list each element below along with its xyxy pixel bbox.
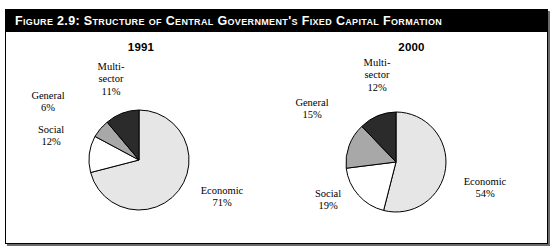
pie-label-general-2000-text: General	[286, 97, 338, 109]
pie-chart-1991	[87, 108, 191, 212]
pie-value-general-1991: 6%	[22, 102, 74, 114]
pie-label-economic-2000: Economic 54%	[453, 176, 517, 201]
figure-title-bar: Figure 2.9: Structure of Central Governm…	[6, 10, 547, 32]
pie-label-economic-1991-text: Economic	[190, 185, 254, 197]
pie-label-multi-sector-1991-line1b: sector	[84, 73, 138, 85]
figure-container: Figure 2.9: Structure of Central Governm…	[0, 0, 555, 252]
chart-title-1991: 1991	[6, 41, 294, 53]
pie-value-social-2000: 19%	[304, 200, 352, 212]
pie-label-multi-sector-1991: Multi- sector 11%	[84, 61, 138, 98]
pie-label-multi-sector-2000-line1b: sector	[350, 69, 404, 81]
pie-label-social-2000: Social 19%	[304, 188, 352, 213]
pie-value-economic-2000: 54%	[453, 188, 517, 200]
chart-panel-1991: 1991 Multi- sector 11% General 6% Socia	[6, 32, 276, 243]
pie-label-multi-sector-2000-line1: Multi-	[350, 57, 404, 69]
chart-title-2000: 2000	[276, 41, 555, 53]
pie-label-economic-1991: Economic 71%	[190, 185, 254, 210]
pie-label-social-1991-text: Social	[28, 124, 74, 136]
pie-label-multi-sector-1991-line1: Multi-	[84, 61, 138, 73]
pie-label-social-1991: Social 12%	[28, 124, 74, 149]
pie-value-multi-sector-1991: 11%	[84, 86, 138, 98]
pie-value-economic-1991: 71%	[190, 197, 254, 209]
pie-label-general-1991-text: General	[22, 90, 74, 102]
pie-label-general-1991: General 6%	[22, 90, 74, 115]
chart-panel-2000: 2000 Multi- sector 12% General 15% Soci	[276, 32, 547, 243]
pie-value-general-2000: 15%	[286, 109, 338, 121]
pie-label-economic-2000-text: Economic	[453, 176, 517, 188]
pie-label-social-2000-text: Social	[304, 188, 352, 200]
figure-title: Figure 2.9: Structure of Central Governm…	[15, 15, 442, 28]
pie-value-multi-sector-2000: 12%	[350, 82, 404, 94]
pie-label-general-2000: General 15%	[286, 97, 338, 122]
pie-svg-2000	[344, 110, 448, 214]
pie-label-multi-sector-2000: Multi- sector 12%	[350, 57, 404, 94]
pie-chart-2000	[344, 110, 448, 214]
pie-svg-1991	[87, 108, 191, 212]
pie-value-social-1991: 12%	[28, 136, 74, 148]
